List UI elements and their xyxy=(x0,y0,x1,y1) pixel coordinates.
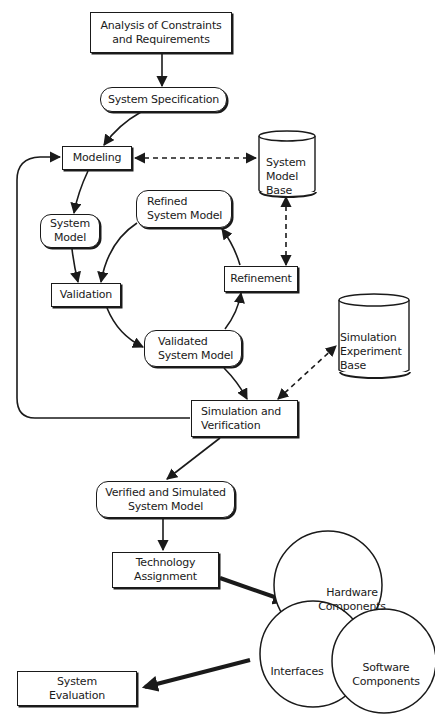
node-label: Technology Assignment xyxy=(134,556,197,584)
node-label: Analysis of Constraints and Requirements xyxy=(100,19,221,47)
edge-refinement-to-refined xyxy=(222,229,240,265)
node-modeling: Modeling xyxy=(62,146,132,170)
edge-spec-to-modeling xyxy=(104,112,141,145)
node-validation: Validation xyxy=(51,283,121,307)
node-label: System Evaluation xyxy=(49,675,105,703)
node-label: Refinement xyxy=(230,272,291,286)
label-interfaces: Interfaces xyxy=(262,651,332,679)
edge-components-to-evaluation xyxy=(145,660,250,687)
node-label: Simulation Experiment Base xyxy=(340,331,402,372)
edge-modeling-to-system-model xyxy=(74,171,88,213)
label-system-model-base: System Model Base xyxy=(266,142,314,198)
node-label: Simulation and Verification xyxy=(201,405,281,433)
node-system-model: System Model xyxy=(40,214,100,248)
label-hardware-components: Hardware Components xyxy=(312,572,392,614)
node-technology-assignment: Technology Assignment xyxy=(112,552,219,588)
node-label: Refined System Model xyxy=(147,195,222,223)
edge-simulation-experiment-base xyxy=(278,346,336,399)
edge-validated-to-refinement xyxy=(225,293,241,329)
node-system-evaluation: System Evaluation xyxy=(17,671,137,706)
edge-refined-to-validation xyxy=(101,223,137,282)
edge-system-model-to-validation xyxy=(72,249,78,282)
node-label: Modeling xyxy=(73,151,121,165)
node-label: Interfaces xyxy=(271,665,324,678)
node-label: Hardware Components xyxy=(318,586,386,613)
node-label: Validated System Model xyxy=(158,335,233,363)
node-simulation-and-verification: Simulation and Verification xyxy=(191,400,298,437)
node-validated-system-model: Validated System Model xyxy=(144,330,242,367)
node-label: System Model xyxy=(50,217,90,245)
node-system-specification: System Specification xyxy=(100,87,227,112)
node-label: System Model Base xyxy=(266,156,306,197)
node-refinement: Refinement xyxy=(224,266,298,292)
node-label: Validation xyxy=(60,288,112,302)
system-design-flow-diagram: Analysis of Constraints and Requirements… xyxy=(0,0,435,715)
node-analysis-of-constraints: Analysis of Constraints and Requirements xyxy=(90,12,232,53)
node-verified-and-simulated-model: Verified and Simulated System Model xyxy=(96,481,235,518)
node-label: Software Components xyxy=(352,661,420,688)
node-label: Verified and Simulated System Model xyxy=(105,486,226,514)
label-simulation-experiment-base: Simulation Experiment Base xyxy=(340,317,410,373)
edge-simulation-to-verified xyxy=(167,438,220,479)
edge-validated-to-simulation xyxy=(224,368,247,399)
edge-validation-to-validated xyxy=(107,308,143,347)
node-refined-system-model: Refined System Model xyxy=(136,190,232,228)
node-label: System Specification xyxy=(108,93,219,107)
label-software-components: Software Components xyxy=(346,647,426,689)
